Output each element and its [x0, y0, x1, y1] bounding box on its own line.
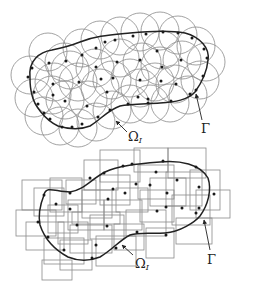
nodes — [37, 160, 216, 260]
boundary-label-gamma: Γ — [207, 252, 216, 267]
interior-node — [198, 207, 201, 210]
boundary-node — [114, 39, 117, 42]
boundary-node — [162, 160, 165, 163]
support-rectangle — [166, 172, 202, 206]
support-rectangle — [16, 210, 56, 236]
boundary-node — [170, 100, 173, 103]
interior-node — [112, 77, 115, 80]
interior-node — [64, 100, 67, 103]
boundary-node — [103, 172, 106, 175]
boundary-node — [81, 123, 84, 126]
interior-node — [100, 78, 103, 81]
boundary-node — [97, 116, 100, 119]
boundary-node — [203, 48, 206, 51]
boundary-node — [162, 31, 165, 34]
gamma-pointer-arrow — [204, 220, 210, 250]
interior-node — [139, 79, 142, 82]
interior-node — [55, 203, 58, 206]
interior-node — [106, 91, 109, 94]
boundary-node — [89, 177, 92, 180]
boundary-node — [91, 257, 94, 260]
interior-node — [135, 183, 138, 186]
interior-node — [176, 179, 179, 182]
boundary-node — [145, 33, 148, 36]
boundary-node — [71, 126, 74, 129]
support-rectangle — [48, 205, 78, 233]
boundary-node — [206, 57, 209, 60]
interior-node — [161, 66, 164, 69]
boundary-node — [104, 41, 107, 44]
interior-node — [131, 163, 134, 166]
support-circle — [111, 59, 149, 97]
interior-node — [156, 210, 159, 213]
boundary-node — [43, 112, 46, 115]
interior-node — [156, 50, 159, 53]
boundary-node — [189, 93, 192, 96]
boundary-node — [81, 54, 84, 57]
boundary-node — [127, 103, 130, 106]
support-circle — [123, 43, 161, 81]
boundary-node — [49, 118, 52, 121]
boundary-node — [37, 221, 40, 224]
boundary-node — [43, 194, 46, 197]
boundary-node — [109, 109, 112, 112]
boundary-node — [69, 192, 72, 195]
boundary-node — [65, 60, 68, 63]
boundary-node — [195, 166, 198, 169]
support-label-omega: ΩI — [128, 129, 143, 145]
support-circle — [69, 81, 107, 119]
interior-node — [52, 83, 55, 86]
interior-node — [149, 184, 152, 187]
boundary-node — [63, 249, 66, 252]
boundary-node — [213, 193, 216, 196]
boundary-node — [195, 89, 198, 92]
interior-node — [166, 192, 169, 195]
boundary-curve — [39, 162, 209, 261]
figure-canvas: Γ ΩI Γ ΩI — [0, 0, 253, 287]
boundary-node — [48, 62, 51, 65]
boundary-node — [33, 91, 36, 94]
interior-node — [180, 59, 183, 62]
boundary-node — [115, 247, 118, 250]
interior-node — [107, 198, 110, 201]
gamma-pointer-arrow — [196, 94, 202, 120]
support-rectangle — [114, 224, 144, 250]
boundary-node — [47, 236, 50, 239]
boundary-node — [95, 47, 98, 50]
interior-node — [124, 192, 127, 195]
panel-circular-supports: Γ ΩI — [11, 12, 225, 147]
interior-node — [198, 186, 201, 189]
boundary-node — [61, 126, 64, 129]
interior-node — [175, 83, 178, 86]
boundary-node — [191, 37, 194, 40]
boundary-node — [132, 35, 135, 38]
interior-node — [155, 171, 158, 174]
interior-node — [76, 224, 79, 227]
support-circle — [15, 79, 53, 117]
boundary-node — [202, 75, 205, 78]
boundary-node — [27, 76, 30, 79]
support-rectangle — [138, 165, 174, 199]
boundary-node — [122, 165, 125, 168]
interior-node — [165, 206, 168, 209]
interior-node — [160, 80, 163, 83]
support-circle — [81, 69, 119, 107]
boundary-node — [195, 212, 198, 215]
interior-node — [86, 105, 89, 108]
boundary-node — [31, 67, 34, 70]
interior-node — [112, 188, 115, 191]
boundary-node — [177, 32, 180, 35]
interior-node — [78, 81, 81, 84]
boundary-label-gamma: Γ — [201, 121, 210, 136]
support-rectangle — [96, 236, 136, 266]
boundary-node — [147, 102, 150, 105]
boundary-node — [165, 234, 168, 237]
interior-node — [106, 225, 109, 228]
interior-node — [95, 244, 98, 247]
interior-node — [139, 59, 142, 62]
interior-node — [69, 208, 72, 211]
interior-node — [137, 96, 140, 99]
interior-node — [181, 207, 184, 210]
boundary-node — [37, 103, 40, 106]
circular-supports — [11, 12, 225, 147]
